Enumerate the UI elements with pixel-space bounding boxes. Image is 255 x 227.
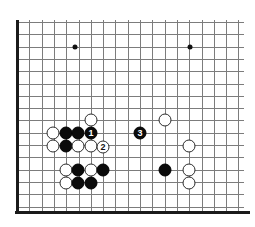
stone-white[interactable]: [159, 114, 172, 127]
stone-black[interactable]: [72, 164, 85, 177]
star-point-right: [188, 45, 193, 50]
move-number-2: 2: [100, 143, 105, 152]
grid-line-horizontal-3: [17, 59, 244, 60]
grid-line-horizontal-1: [17, 34, 244, 35]
grid-line-horizontal-15: [17, 207, 244, 208]
stone-black[interactable]: [85, 177, 98, 190]
grid-line-horizontal-12: [17, 170, 244, 171]
stone-black[interactable]: [159, 164, 172, 177]
stone-white[interactable]: [47, 140, 60, 153]
grid-line-horizontal-13: [17, 182, 244, 183]
star-point-left: [73, 45, 78, 50]
stone-black[interactable]: [72, 127, 85, 140]
board-edge-left: [16, 20, 19, 214]
grid-line-horizontal-11: [17, 157, 244, 158]
grid-line-horizontal-5: [17, 84, 244, 85]
grid-line-horizontal-6: [17, 96, 244, 97]
grid-line-horizontal-14: [17, 194, 244, 195]
stone-white[interactable]: [85, 114, 98, 127]
grid-line-horizontal-4: [17, 71, 244, 72]
stone-white[interactable]: [72, 140, 85, 153]
stone-black-move-3[interactable]: 3: [134, 127, 147, 140]
board-edge-bottom: [15, 211, 250, 214]
grid-line-horizontal-8: [17, 120, 244, 121]
grid-line-horizontal-7: [17, 108, 244, 109]
move-number-3: 3: [137, 129, 142, 138]
stone-black-move-1[interactable]: 1: [85, 127, 98, 140]
grid-line-horizontal-0: [17, 22, 244, 23]
stone-black[interactable]: [97, 164, 110, 177]
move-number-1: 1: [88, 129, 93, 138]
stone-white-move-2[interactable]: 2: [97, 141, 110, 154]
stone-black[interactable]: [72, 177, 85, 190]
go-board-diagram: 132: [0, 0, 255, 227]
stone-white[interactable]: [183, 177, 196, 190]
grid-line-horizontal-2: [17, 47, 244, 48]
stone-white[interactable]: [183, 164, 196, 177]
stone-white[interactable]: [47, 127, 60, 140]
stone-white[interactable]: [183, 140, 196, 153]
